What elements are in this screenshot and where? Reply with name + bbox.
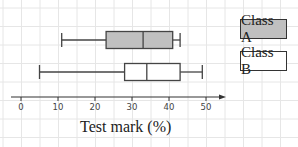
svg-text:10: 10 [53,102,64,112]
svg-text:20: 20 [90,102,101,112]
legend-label-class-b: Class B [241,44,286,78]
box-class-a [62,32,180,49]
svg-text:40: 40 [164,102,175,112]
legend-class-b: Class B [240,51,287,71]
box-class-b [40,64,203,81]
svg-text:50: 50 [201,102,212,112]
legend-class-a: Class A [240,19,287,39]
svg-text:0: 0 [18,102,23,112]
x-axis-label: Test mark (%) [80,118,171,136]
box-plots [40,32,203,81]
legend-label-class-a: Class A [241,12,286,46]
svg-text:30: 30 [127,102,138,112]
x-axis: 01020304050 [11,95,226,113]
